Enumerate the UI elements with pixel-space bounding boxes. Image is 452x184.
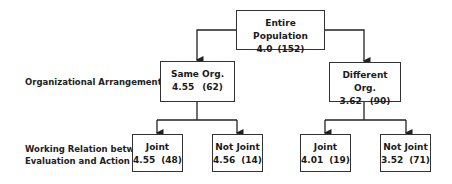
node-value: 3.62: [340, 96, 362, 106]
node-value: 4.0: [257, 44, 273, 54]
node-same-org: Same Org. 4.55(62): [160, 61, 235, 102]
node-different-org-joint: Joint 4.01(19): [300, 134, 351, 172]
node-different-org: Different Org. 3.62(90): [329, 62, 401, 102]
node-count: (90): [370, 96, 391, 106]
node-count: (48): [161, 155, 182, 165]
node-count: (152): [277, 44, 304, 54]
node-title: Not Joint: [213, 141, 262, 154]
node-title: Joint: [133, 141, 182, 154]
node-count: (71): [409, 155, 430, 165]
node-title: Joint: [301, 141, 350, 154]
node-value: 3.52: [381, 155, 403, 165]
node-entire-population: Entire Population 4.0(152): [236, 10, 325, 50]
node-count: (19): [329, 155, 350, 165]
node-title: Same Org.: [161, 68, 234, 81]
node-title: Different Org.: [330, 69, 400, 95]
node-value: 4.56: [213, 155, 235, 165]
node-count: (14): [241, 155, 262, 165]
node-same-org-not-joint: Not Joint 4.56(14): [212, 134, 263, 172]
row-label-organizational-arrangements: Organizational Arrangements: [25, 76, 167, 88]
node-title: Not Joint: [381, 141, 430, 154]
node-value: 4.01: [301, 155, 323, 165]
node-value: 4.55: [133, 155, 155, 165]
node-title: Entire Population: [237, 17, 324, 43]
node-value: 4.55: [172, 82, 194, 92]
node-count: (62): [202, 82, 223, 92]
node-different-org-not-joint: Not Joint 3.52(71): [380, 134, 431, 172]
node-same-org-joint: Joint 4.55(48): [132, 134, 183, 172]
